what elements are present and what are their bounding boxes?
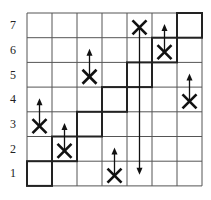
marker-group <box>133 20 147 174</box>
arrowhead-up-icon <box>112 148 118 155</box>
marker-group <box>33 98 47 133</box>
bold-cell <box>177 13 202 38</box>
marker-group <box>108 148 122 183</box>
bold-cell <box>102 87 127 112</box>
grid-diagram <box>0 0 211 200</box>
bold-cell <box>27 161 52 186</box>
marker-group <box>183 74 197 109</box>
arrowhead-up-icon <box>87 49 93 56</box>
bold-cell <box>77 112 102 137</box>
marker-group <box>158 24 172 59</box>
marker-group <box>58 123 72 158</box>
arrowhead-up-icon <box>62 123 68 130</box>
arrowhead-up-icon <box>162 24 168 31</box>
markers <box>33 20 197 182</box>
arrowhead-down-icon <box>137 168 143 175</box>
arrowhead-up-icon <box>37 98 43 105</box>
marker-group <box>83 49 97 84</box>
arrowhead-up-icon <box>187 74 193 81</box>
